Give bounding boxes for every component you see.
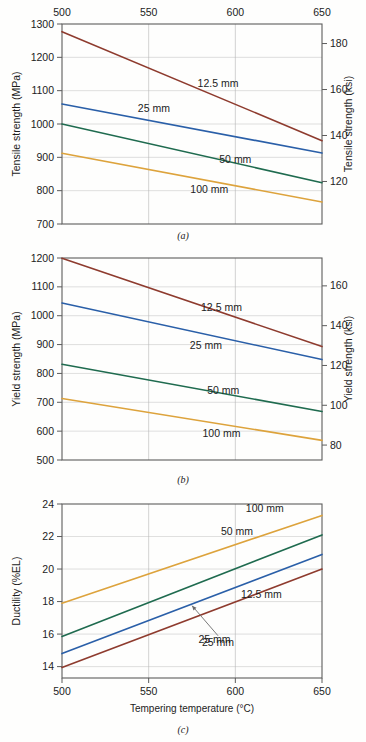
series-label-25mm: 25 mm xyxy=(190,339,222,351)
series-label-50mm: 50 mm xyxy=(207,384,239,396)
series-line-50mm xyxy=(62,124,322,183)
y2-axis-tick-label: 180 xyxy=(330,37,348,49)
y-axis-tick-label: 22 xyxy=(42,530,54,542)
y-axis-title: Yield strength (MPa) xyxy=(10,311,22,406)
y-axis-tick-label: 18 xyxy=(42,595,54,607)
y2-axis-tick-label: 160 xyxy=(330,279,348,291)
series-label-125mm: 12.5 mm xyxy=(198,77,239,89)
x-axis-title: Tempering temperature (°C) xyxy=(130,703,254,714)
chart-panel-c: 141618202224Ductility (%EL)500550600650T… xyxy=(0,492,366,742)
y2-axis-tick-label: 80 xyxy=(330,439,342,451)
chart-b-svg: 500600700800900100011001200Yield strengt… xyxy=(0,248,366,476)
y-axis-tick-label: 1000 xyxy=(31,118,55,130)
panel-b-caption: (b) xyxy=(0,474,366,485)
x-axis-tick-label: 650 xyxy=(313,685,331,697)
y-axis-tick-label: 900 xyxy=(36,151,54,163)
series-label-125mm: 12.5 mm xyxy=(241,588,282,600)
annotation-label: 25 mm xyxy=(202,636,234,648)
x-axis-tick-label: 550 xyxy=(140,6,158,18)
y-axis-tick-label: 14 xyxy=(42,660,54,672)
chart-panel-b: 500600700800900100011001200Yield strengt… xyxy=(0,248,366,492)
chart-a-svg: 7008009001000110012001300Tensile strengt… xyxy=(0,0,366,232)
y-axis-tick-label: 16 xyxy=(42,628,54,640)
y-axis-tick-label: 20 xyxy=(42,563,54,575)
y-axis-tick-label: 24 xyxy=(42,498,54,510)
y-axis-tick-label: 1000 xyxy=(31,309,55,321)
y-axis-title: Tensile strength (MPa) xyxy=(10,71,22,176)
series-line-25mm xyxy=(62,104,322,153)
y-axis-tick-label: 900 xyxy=(36,338,54,350)
series-label-25mm: 25 mm xyxy=(138,102,170,114)
y-axis-tick-label: 1200 xyxy=(31,51,55,63)
series-line-125mm xyxy=(62,258,322,346)
y-axis-tick-label: 700 xyxy=(36,218,54,230)
y-axis-tick-label: 700 xyxy=(36,396,54,408)
series-line-50mm xyxy=(62,535,322,637)
y-axis-tick-label: 1100 xyxy=(31,84,54,96)
y-axis-tick-label: 1200 xyxy=(31,252,55,264)
x-axis-tick-label: 600 xyxy=(227,685,245,697)
y-axis-title: Ductility (%EL) xyxy=(10,557,22,626)
y2-axis-title: Tensile strength (ksi) xyxy=(342,76,354,172)
x-axis-tick-label: 500 xyxy=(53,6,71,18)
series-label-100mm: 100 mm xyxy=(202,427,240,439)
y-axis-tick-label: 500 xyxy=(36,454,54,466)
series-line-25mm xyxy=(62,303,322,360)
y2-axis-title: Yield strength (ksi) xyxy=(342,316,354,403)
chart-panel-a: 7008009001000110012001300Tensile strengt… xyxy=(0,0,366,248)
series-label-125mm: 12.5 mm xyxy=(201,301,242,313)
panel-c-caption: (c) xyxy=(0,724,366,735)
y-axis-tick-label: 1100 xyxy=(31,280,54,292)
panel-a-caption: (a) xyxy=(0,230,366,241)
tempering-property-figure: 7008009001000110012001300Tensile strengt… xyxy=(0,0,366,742)
y-axis-tick-label: 800 xyxy=(36,367,54,379)
y-axis-tick-label: 1300 xyxy=(31,18,55,30)
series-label-50mm: 50 mm xyxy=(219,153,251,165)
y-axis-tick-label: 800 xyxy=(36,184,54,196)
y-axis-tick-label: 600 xyxy=(36,425,54,437)
series-line-125mm xyxy=(62,32,322,141)
chart-c-svg: 141618202224Ductility (%EL)500550600650T… xyxy=(0,492,366,725)
x-axis-tick-label: 650 xyxy=(313,6,331,18)
x-axis-tick-label: 500 xyxy=(53,685,71,697)
series-line-125mm xyxy=(62,569,322,667)
series-line-100mm xyxy=(62,515,322,603)
x-axis-tick-label: 600 xyxy=(227,6,245,18)
y2-axis-tick-label: 120 xyxy=(330,175,348,187)
series-label-100mm: 100 mm xyxy=(190,183,228,195)
plot-frame xyxy=(62,258,322,460)
series-label-100mm: 100 mm xyxy=(246,502,284,514)
x-axis-tick-label: 550 xyxy=(140,685,158,697)
series-label-50mm: 50 mm xyxy=(221,525,253,537)
